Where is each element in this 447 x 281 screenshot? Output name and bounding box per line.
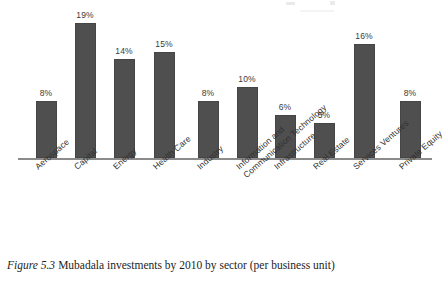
bar[interactable] xyxy=(154,52,175,159)
bar[interactable] xyxy=(114,59,135,158)
figure-caption: Figure 5.3Mubadala investments by 2010 b… xyxy=(7,259,437,271)
bar-value-label: 15% xyxy=(144,39,184,49)
bar-slot: 8% xyxy=(188,0,228,158)
figure-number: Figure 5.3 xyxy=(7,259,58,271)
bar-value-label: 8% xyxy=(390,88,430,98)
bar-slot: 10% xyxy=(227,0,267,158)
bar-slot: 16% xyxy=(344,0,384,158)
bar-value-label: 8% xyxy=(26,88,66,98)
bar[interactable] xyxy=(75,23,96,158)
bar-value-label: 16% xyxy=(344,31,384,41)
bar-value-label: 14% xyxy=(104,46,144,56)
bar-slot: 15% xyxy=(144,0,184,158)
bar-slot: 8% xyxy=(26,0,66,158)
bar[interactable] xyxy=(354,44,375,158)
bar-slot: 14% xyxy=(104,0,144,158)
bar-value-label: 10% xyxy=(227,74,267,84)
bar-slot: 19% xyxy=(65,0,105,158)
figure-caption-text: Mubadala investments by 2010 by sector (… xyxy=(58,259,335,271)
bar-value-label: 8% xyxy=(188,88,228,98)
bar-chart-plot-area: 8%19%14%15%8%10%6%5%16%8% AerospaceCapit… xyxy=(18,0,432,160)
bar-value-label: 19% xyxy=(65,10,105,20)
figure-container: 8%19%14%15%8%10%6%5%16%8% AerospaceCapit… xyxy=(0,0,447,281)
